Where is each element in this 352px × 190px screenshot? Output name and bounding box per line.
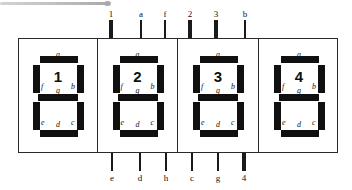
top-pin-2[interactable]: [188, 20, 192, 38]
segment-label-d: d: [56, 121, 60, 129]
segment-c: [77, 102, 84, 130]
digit-cell-4: abcdefg4: [259, 39, 339, 152]
segment-label-e: e: [201, 119, 205, 127]
top-pin-f[interactable]: [164, 20, 166, 38]
segment-d: [200, 130, 238, 137]
segment-label-c: c: [151, 119, 155, 127]
bottom-pin-label-4: 4: [242, 174, 247, 183]
top-pin-label-2: 2: [188, 10, 193, 19]
segment-label-a: a: [56, 51, 60, 59]
bottom-pin-label-c: c: [190, 174, 194, 183]
seven-segment-glyph-3: abcdefg3: [190, 50, 246, 142]
segment-label-g: g: [216, 87, 220, 95]
bottom-pin-d[interactable]: [139, 153, 141, 171]
segment-e: [33, 102, 40, 130]
digit-index-label: 3: [190, 69, 246, 84]
segment-label-b: b: [71, 83, 75, 91]
segment-label-e: e: [282, 119, 286, 127]
segment-label-g: g: [136, 87, 140, 95]
top-pin-1[interactable]: [109, 20, 113, 38]
scan-artifact-dot: [104, 1, 111, 6]
top-pin-label-1: 1: [109, 10, 114, 19]
segment-label-f: f: [41, 83, 43, 91]
segment-g: [118, 94, 158, 101]
segment-label-b: b: [231, 83, 235, 91]
segment-label-b: b: [151, 83, 155, 91]
segment-label-d: d: [136, 121, 140, 129]
digit-index-label: 2: [110, 69, 166, 84]
seven-segment-glyph-4: abcdefg4: [271, 50, 327, 142]
bottom-pin-e[interactable]: [111, 153, 113, 171]
bottom-pin-label-g: g: [216, 174, 221, 183]
segment-d: [281, 130, 319, 137]
segment-label-a: a: [136, 51, 140, 59]
top-pin-b[interactable]: [244, 20, 246, 38]
scan-artifact-line: [0, 2, 107, 5]
segment-e: [193, 102, 200, 130]
segment-label-c: c: [312, 119, 316, 127]
segment-c: [237, 102, 244, 130]
diagram-canvas: 1af23b abcdefg1abcdefg2abcdefg3abcdefg4 …: [0, 0, 352, 190]
seven-segment-glyph-2: abcdefg2: [110, 50, 166, 142]
segment-label-f: f: [201, 83, 203, 91]
bottom-pin-label-d: d: [138, 174, 143, 183]
top-pin-label-f: f: [164, 10, 167, 19]
segment-label-f: f: [282, 83, 284, 91]
digit-cell-2: abcdefg2: [98, 39, 178, 152]
digit-cell-1: abcdefg1: [19, 39, 98, 152]
digit-index-label: 1: [30, 69, 86, 84]
segment-label-a: a: [216, 51, 220, 59]
segment-c: [318, 102, 325, 130]
segment-c: [157, 102, 164, 130]
display-package-outline: abcdefg1abcdefg2abcdefg3abcdefg4: [18, 38, 338, 153]
bottom-pin-label-e: e: [110, 174, 114, 183]
top-pin-3[interactable]: [214, 20, 218, 38]
segment-label-e: e: [41, 119, 45, 127]
segment-label-c: c: [231, 119, 235, 127]
segment-g: [279, 94, 319, 101]
segment-label-d: d: [297, 121, 301, 129]
segment-g: [38, 94, 78, 101]
segment-label-a: a: [297, 51, 301, 59]
bottom-pin-g[interactable]: [217, 153, 219, 171]
segment-label-d: d: [216, 121, 220, 129]
segment-label-g: g: [56, 87, 60, 95]
top-pin-label-3: 3: [214, 10, 219, 19]
top-pin-a[interactable]: [140, 20, 142, 38]
segment-e: [113, 102, 120, 130]
bottom-pin-h[interactable]: [165, 153, 167, 171]
top-pin-label-a: a: [139, 10, 143, 19]
segment-label-c: c: [71, 119, 75, 127]
segment-label-f: f: [121, 83, 123, 91]
segment-label-g: g: [297, 87, 301, 95]
segment-e: [274, 102, 281, 130]
segment-d: [40, 130, 78, 137]
top-pin-label-b: b: [243, 10, 248, 19]
seven-segment-glyph-1: abcdefg1: [30, 50, 86, 142]
bottom-pin-label-h: h: [164, 174, 169, 183]
segment-label-e: e: [121, 119, 125, 127]
bottom-pin-c[interactable]: [191, 153, 193, 171]
digit-cell-3: abcdefg3: [178, 39, 259, 152]
digit-index-label: 4: [271, 69, 327, 84]
segment-label-b: b: [312, 83, 316, 91]
segment-d: [120, 130, 158, 137]
bottom-pin-4[interactable]: [242, 153, 246, 171]
segment-g: [198, 94, 238, 101]
